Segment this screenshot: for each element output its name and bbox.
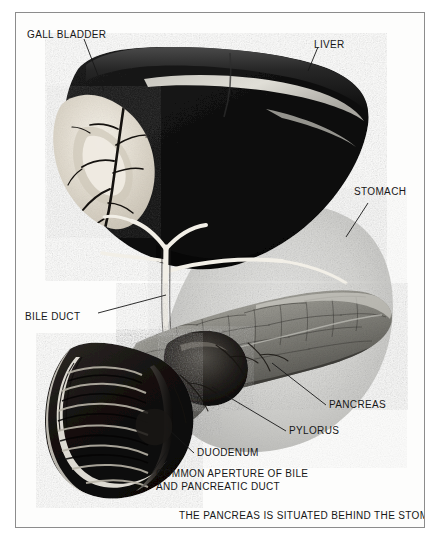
label-gall-bladder: GALL BLADDER	[27, 29, 106, 42]
label-bile-duct: BILE DUCT	[25, 311, 80, 324]
label-liver: LIVER	[314, 39, 345, 52]
figure-caption: THE PANCREAS IS SITUATED BEHIND THE STOM…	[179, 510, 425, 521]
label-common-aperture-line1: COMMON APERTURE OF BILE	[156, 468, 308, 481]
label-pylorus: PYLORUS	[289, 425, 339, 438]
figure-frame: GALL BLADDER LIVER STOMACH BILE DUCT PAN…	[15, 12, 425, 528]
label-common-aperture-line2: AND PANCREATIC DUCT	[156, 481, 280, 494]
label-duodenum: DUODENUM	[197, 447, 259, 460]
label-pancreas: PANCREAS	[329, 399, 386, 412]
leader-bile-duct	[98, 295, 166, 313]
anatomy-figure: GALL BLADDER LIVER STOMACH BILE DUCT PAN…	[0, 0, 436, 544]
label-stomach: STOMACH	[354, 186, 406, 199]
